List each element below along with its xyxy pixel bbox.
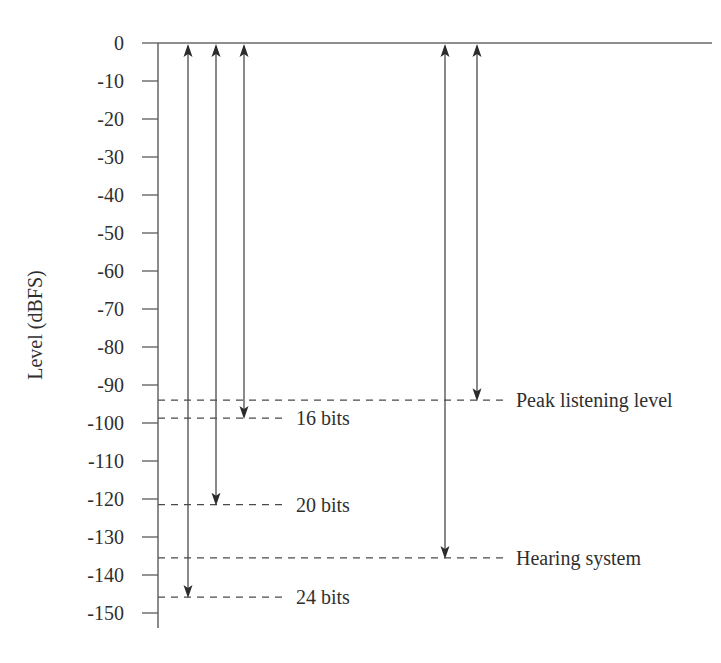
y-axis-title: Level (dBFS) xyxy=(24,270,47,379)
level-dbfs-chart: 0-10-20-30-40-50-60-70-80-90-100-110-120… xyxy=(0,0,721,663)
y-tick-label: -130 xyxy=(87,526,124,548)
y-tick-label: -70 xyxy=(97,298,124,320)
annotation-label-20-bits: 20 bits xyxy=(296,494,350,516)
chart-container: 0-10-20-30-40-50-60-70-80-90-100-110-120… xyxy=(0,0,721,663)
y-tick-label: -40 xyxy=(97,184,124,206)
y-tick-label: -90 xyxy=(97,374,124,396)
annotation-label-24-bits: 24 bits xyxy=(296,586,350,608)
y-tick-label: -10 xyxy=(97,70,124,92)
annotation-label-hearing-system: Hearing system xyxy=(516,547,641,570)
y-tick-label: -150 xyxy=(87,602,124,624)
annotation-label-peak-listening-level: Peak listening level xyxy=(516,389,673,412)
y-tick-label: -50 xyxy=(97,222,124,244)
tick-group: 0-10-20-30-40-50-60-70-80-90-100-110-120… xyxy=(87,32,158,624)
y-tick-label: -110 xyxy=(88,450,124,472)
y-tick-label: -80 xyxy=(97,336,124,358)
y-tick-label: -30 xyxy=(97,146,124,168)
y-tick-label: -20 xyxy=(97,108,124,130)
y-tick-label: -120 xyxy=(87,488,124,510)
y-tick-label: -100 xyxy=(87,412,124,434)
annotation-labels-group: 24 bits20 bits16 bitsHearing systemPeak … xyxy=(296,389,673,608)
y-tick-label: -140 xyxy=(87,564,124,586)
axis-group xyxy=(158,43,712,628)
y-tick-label: -60 xyxy=(97,260,124,282)
annotation-label-16-bits: 16 bits xyxy=(296,407,350,429)
y-tick-label: 0 xyxy=(114,32,124,54)
axis-title-group: Level (dBFS) xyxy=(24,270,47,379)
